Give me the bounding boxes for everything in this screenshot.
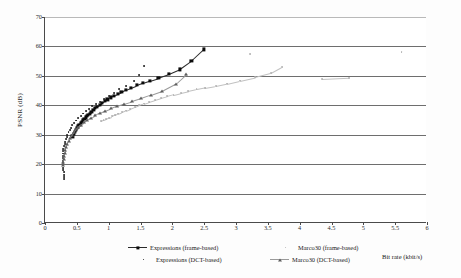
y-tick-label: 70 [36, 14, 42, 20]
data-point [401, 51, 403, 53]
data-point [114, 114, 116, 116]
data-point [108, 117, 110, 119]
data-point [122, 102, 126, 105]
data-point [124, 88, 127, 91]
x-tick-label: 2.5 [200, 225, 208, 231]
data-point [226, 83, 228, 85]
data-point [80, 115, 82, 117]
x-tick-label: 0.5 [73, 225, 81, 231]
x-tick-label: 1.5 [137, 225, 145, 231]
data-point [133, 80, 135, 82]
y-tick-label: 10 [36, 190, 42, 196]
data-point [103, 109, 107, 112]
data-point [63, 169, 65, 171]
data-point [63, 171, 65, 173]
legend-item: Marco30 (DCT-based) [270, 256, 350, 263]
data-point [160, 97, 162, 99]
data-point [63, 178, 65, 180]
x-tick-label: 4 [298, 225, 301, 231]
data-point [166, 96, 168, 98]
data-point [63, 176, 65, 178]
data-point [109, 107, 113, 110]
series-line-segment [271, 67, 282, 74]
data-point [70, 134, 74, 137]
data-point [108, 95, 110, 97]
series-line-segment [322, 78, 349, 80]
data-point [143, 65, 145, 67]
data-point [95, 103, 97, 105]
data-point [71, 124, 73, 126]
data-point [73, 122, 75, 124]
data-point [174, 82, 178, 85]
series-line-segment [240, 77, 255, 82]
legend-marker-icon [270, 256, 289, 263]
legend-marker-icon [128, 244, 147, 251]
data-point [348, 77, 350, 79]
y-tick-label: 30 [36, 132, 42, 138]
data-point [178, 68, 181, 71]
data-point [139, 97, 143, 100]
legend-label: Marco30 (DCT-based) [292, 256, 350, 263]
data-point [117, 113, 119, 115]
data-point [103, 119, 105, 121]
data-point [203, 48, 206, 51]
data-point [112, 94, 115, 97]
data-point [66, 134, 68, 136]
data-point [116, 92, 119, 95]
x-tick-label: 0 [43, 225, 46, 231]
data-point [98, 111, 102, 114]
data-point [93, 114, 97, 117]
legend-marker-icon [276, 244, 295, 251]
data-point [100, 120, 102, 122]
data-point [321, 78, 323, 80]
data-point [134, 106, 136, 108]
series-line-segment [255, 73, 271, 78]
data-point [89, 116, 93, 119]
data-point [121, 111, 123, 113]
legend-label: Expressions (DCT-based) [156, 256, 222, 263]
series-line-segment [191, 50, 204, 62]
data-point [61, 163, 65, 166]
x-tick-label: 4.5 [328, 225, 336, 231]
series-line-segment [227, 81, 240, 85]
data-point [190, 60, 193, 63]
data-point [281, 66, 283, 68]
data-point [85, 110, 87, 112]
data-point [64, 146, 68, 149]
data-point [75, 120, 77, 122]
y-axis-title: PSNR (dB) [16, 93, 24, 127]
data-point [77, 117, 79, 119]
data-point [63, 167, 65, 169]
data-point [135, 84, 138, 87]
data-point [204, 87, 206, 89]
legend-item: Expressions (DCT-based) [134, 256, 222, 263]
data-point [129, 86, 132, 89]
x-tick-label: 3.5 [264, 225, 272, 231]
data-point [148, 101, 150, 103]
data-point [141, 81, 144, 84]
x-tick-label: 5 [362, 225, 365, 231]
data-point [149, 93, 153, 96]
data-point [105, 118, 107, 120]
data-point [157, 76, 160, 79]
data-point [82, 113, 84, 115]
data-point [239, 80, 241, 82]
data-point [63, 174, 65, 176]
data-point [168, 72, 171, 75]
data-point [61, 160, 65, 163]
data-point [120, 90, 123, 93]
plot-area: 010203040506070 00.511.522.533.544.555.5… [44, 17, 426, 223]
data-point [69, 129, 71, 131]
data-point [154, 99, 156, 101]
legend-marker-icon [134, 256, 153, 263]
data-point [62, 154, 66, 157]
x-tick-label: 6 [425, 225, 428, 231]
data-point [180, 92, 182, 94]
data-point [196, 88, 198, 90]
data-point [99, 101, 101, 103]
data-point [138, 74, 140, 76]
series-layer [45, 17, 426, 222]
data-point [249, 53, 251, 55]
chart-figure: PSNR (dB) Bit rate (kbit/s) 010203040506… [0, 0, 461, 278]
data-point [187, 90, 189, 92]
